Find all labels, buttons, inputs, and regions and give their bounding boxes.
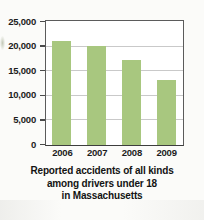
y-axis-tick-label: 10,000 (8, 91, 36, 101)
bar (157, 80, 176, 145)
x-axis-tick-label: 2007 (87, 148, 107, 158)
y-axis-tick-label: 20,000 (8, 41, 36, 51)
caption-line: among drivers under 18 (0, 178, 204, 191)
bar-chart-figure: 25,00020,00015,00010,0005,0000 200620072… (0, 0, 204, 220)
y-axis-tick-label: 25,000 (8, 17, 36, 27)
plot-wrapper: 25,00020,00015,00010,0005,0000 200620072… (0, 0, 204, 152)
bar (52, 41, 71, 145)
y-axis: 25,00020,00015,00010,0005,0000 (0, 0, 45, 152)
x-axis: 2006200720082009 (45, 148, 184, 164)
caption-line: Reported accidents of all kinds (0, 165, 204, 178)
y-axis-tick-label: 15,000 (8, 66, 36, 76)
y-axis-tick-label: 0 (31, 140, 36, 150)
x-axis-tick-label: 2008 (122, 148, 142, 158)
scan-noise-artifact (0, 200, 204, 220)
bar (122, 60, 141, 145)
bar (87, 46, 106, 145)
plot-area (45, 20, 184, 146)
bar-series (46, 21, 183, 145)
y-axis-tick-label: 5,000 (13, 115, 36, 125)
x-axis-tick-label: 2009 (156, 148, 176, 158)
caption-line: in Massachusetts (0, 190, 204, 203)
x-axis-tick-label: 2006 (52, 148, 72, 158)
chart-caption: Reported accidents of all kindsamong dri… (0, 165, 204, 203)
